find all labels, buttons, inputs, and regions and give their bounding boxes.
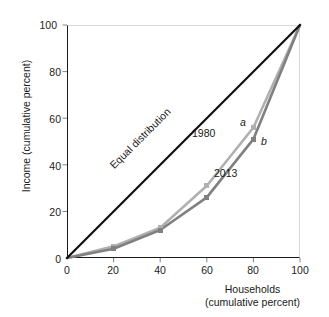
marker-2013-60 xyxy=(204,195,209,200)
marker-1980-80 xyxy=(251,125,256,130)
marker-2013-20 xyxy=(111,246,116,251)
annotation-series-1980: 1980 xyxy=(192,128,215,139)
annotation-point-a: a xyxy=(240,117,246,128)
y-tick-label-40: 40 xyxy=(33,161,61,172)
y-axis-title: Income (cumulative percent) xyxy=(20,26,32,226)
marker-1980-60 xyxy=(204,183,209,188)
x-axis-title: Households (cumulative percent) xyxy=(180,283,325,309)
x-tick-label-20: 20 xyxy=(98,265,128,276)
annotation-point-b: b xyxy=(261,136,267,147)
x-tick-label-40: 40 xyxy=(145,265,175,276)
marker-2013-80 xyxy=(251,137,256,142)
x-tick-label-100: 100 xyxy=(285,265,315,276)
y-tick-label-60: 60 xyxy=(33,114,61,125)
y-tick-label-100: 100 xyxy=(29,20,57,31)
x-tick-label-0: 0 xyxy=(52,265,82,276)
lorenz-curve-figure: Income (cumulative percent) 0 20 40 60 8… xyxy=(0,0,329,317)
x-axis-ticks xyxy=(114,258,300,262)
y-tick-label-0: 0 xyxy=(33,254,61,265)
x-axis-title-line1: Households xyxy=(180,283,325,296)
marker-2013-40 xyxy=(158,228,163,233)
y-axis-ticks xyxy=(63,25,67,211)
y-tick-label-20: 20 xyxy=(33,207,61,218)
x-tick-label-80: 80 xyxy=(238,265,268,276)
x-axis-title-line2: (cumulative percent) xyxy=(180,296,325,309)
x-tick-label-60: 60 xyxy=(192,265,222,276)
y-tick-label-80: 80 xyxy=(33,67,61,78)
annotation-series-2013: 2013 xyxy=(214,168,237,179)
